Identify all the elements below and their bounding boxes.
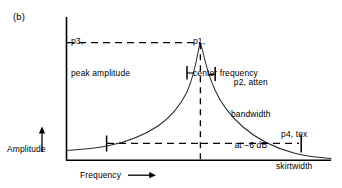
annotation-p2-atten-bandwidth: p2, atten bandwidth at −6 dB	[231, 56, 271, 172]
annotation-p1-line1: p1,	[193, 36, 258, 47]
annotation-p4-line1: p4, tex	[276, 129, 312, 140]
annotation-p4-tex-skirtwidth: p4, tex skirtwidth	[276, 108, 312, 188]
annotation-p4-line2: skirtwidth	[276, 161, 312, 172]
y-axis-label: Amplitude	[7, 144, 46, 155]
annotation-p3-line2: peak amplitude	[71, 68, 130, 79]
x-axis-label: Frequency	[80, 170, 121, 181]
annotation-p2-line1: p2, atten	[231, 77, 271, 88]
panel-letter-label: (b)	[13, 12, 25, 23]
annotation-p2-line2: bandwidth	[231, 109, 271, 120]
annotation-p2-line3: at −6 dB	[231, 140, 271, 151]
annotation-p3-peak-amplitude: p3, peak amplitude	[71, 15, 130, 99]
frequency-right-arrow-icon	[128, 172, 156, 178]
annotation-p3-line1: p3,	[71, 36, 130, 47]
figure-panel-b: (b) p3, peak amplitude p1, center freque…	[0, 0, 342, 188]
